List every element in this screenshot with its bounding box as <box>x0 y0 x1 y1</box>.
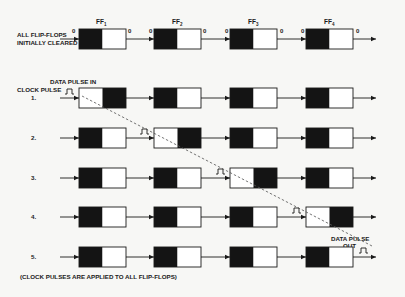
flip-flop-2 <box>154 207 201 227</box>
initial-label-line1: ALL FLIP-FLOPS <box>17 31 67 38</box>
flip-flop-2 <box>154 88 201 108</box>
svg-text:0: 0 <box>356 28 360 34</box>
flip-flop-1 <box>79 247 126 267</box>
flip-flop-2 <box>154 247 201 267</box>
ff1-header: FF1 <box>96 18 107 27</box>
svg-text:0: 0 <box>301 28 305 34</box>
data-in-label: DATA PULSE IN <box>50 78 97 85</box>
initial-label-line2: INITIALLY CLEARED <box>17 39 78 46</box>
register-row-4 <box>60 207 376 227</box>
data-out-label-line1: DATA PULSE <box>331 235 369 242</box>
row-label-5: 5. <box>31 253 36 260</box>
flip-flop-1 <box>79 29 126 49</box>
flip-flop-4 <box>306 247 353 267</box>
ff4-header: FF4 <box>324 18 335 27</box>
ff3-header: FF3 <box>248 18 259 27</box>
register-row-3 <box>60 168 376 188</box>
flip-flop-3 <box>230 168 277 188</box>
clock-pulse-label: CLOCK PULSE <box>17 86 61 93</box>
flip-flop-3 <box>230 247 277 267</box>
svg-text:0: 0 <box>72 28 76 34</box>
svg-text:0: 0 <box>203 28 207 34</box>
flip-flop-4 <box>306 88 353 108</box>
footnote: (CLOCK PULSES ARE APPLIED TO ALL FLIP-FL… <box>20 273 177 280</box>
flip-flop-4 <box>306 29 353 49</box>
flip-flop-1 <box>79 207 126 227</box>
flip-flop-2 <box>154 128 201 148</box>
svg-text:0: 0 <box>280 28 284 34</box>
flip-flop-3 <box>230 29 277 49</box>
flip-flop-4 <box>306 168 353 188</box>
row-label-1: 1. <box>31 94 36 101</box>
flip-flop-1 <box>79 168 126 188</box>
flip-flop-4 <box>306 207 353 227</box>
data-pulse-icon <box>359 248 368 253</box>
shift-register-diagram: FF1 FF2 FF3 FF4 ALL FLIP-FLOPS INITIALLY… <box>0 0 405 297</box>
flip-flop-1 <box>79 128 126 148</box>
svg-text:0: 0 <box>128 28 132 34</box>
register-row-1 <box>60 88 376 108</box>
row-label-2: 2. <box>31 134 36 141</box>
flip-flop-3 <box>230 88 277 108</box>
svg-text:0: 0 <box>149 28 153 34</box>
data-pulse-icon <box>65 89 74 94</box>
register-rows <box>60 29 376 267</box>
data-pulse-icon <box>216 169 225 174</box>
flip-flop-2 <box>154 168 201 188</box>
register-row-5 <box>60 247 376 267</box>
flip-flop-3 <box>230 128 277 148</box>
svg-text:0: 0 <box>225 28 229 34</box>
flip-flop-2 <box>154 29 201 49</box>
row-label-4: 4. <box>31 213 36 220</box>
flip-flop-3 <box>230 207 277 227</box>
ff-headers: FF1 FF2 FF3 FF4 <box>96 18 335 27</box>
ff2-header: FF2 <box>172 18 183 27</box>
register-row-0 <box>60 29 376 49</box>
row-label-3: 3. <box>31 174 36 181</box>
flip-flop-4 <box>306 128 353 148</box>
register-row-2 <box>60 128 376 148</box>
